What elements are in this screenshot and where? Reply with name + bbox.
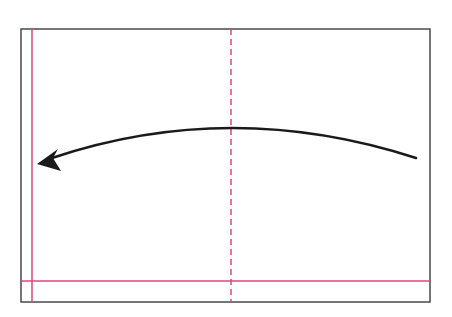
paper-frame <box>21 29 430 302</box>
fold-diagram <box>0 0 452 317</box>
